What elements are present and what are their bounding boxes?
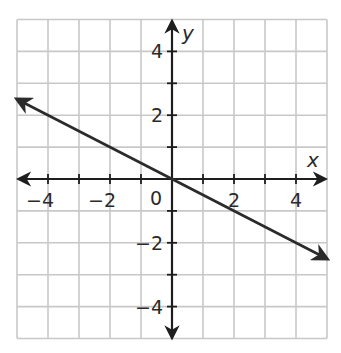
- y-tick-label: 2: [151, 104, 163, 126]
- origin-label: 0: [150, 187, 162, 209]
- y-tick-label: 4: [151, 40, 163, 62]
- y-axis-label: y: [181, 21, 195, 45]
- x-tick-label: 2: [228, 189, 240, 211]
- x-tick-label: −4: [26, 189, 54, 211]
- y-tick-label: −4: [135, 296, 163, 318]
- x-axis-label: x: [306, 148, 319, 172]
- coordinate-plane: −4−22442−2−40xy: [0, 0, 341, 353]
- x-tick-label: 4: [290, 189, 302, 211]
- y-tick-label: −2: [135, 232, 163, 254]
- x-tick-label: −2: [88, 189, 116, 211]
